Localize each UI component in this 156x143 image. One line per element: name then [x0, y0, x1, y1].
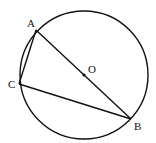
segment-ac: [19, 30, 36, 84]
center-point-o: [82, 73, 85, 76]
geometry-diagram: A B C O: [0, 0, 156, 143]
label-o: O: [88, 63, 96, 75]
segment-cb: [19, 84, 131, 119]
label-b: B: [134, 120, 141, 132]
label-a: A: [27, 17, 35, 29]
label-c: C: [8, 78, 15, 90]
